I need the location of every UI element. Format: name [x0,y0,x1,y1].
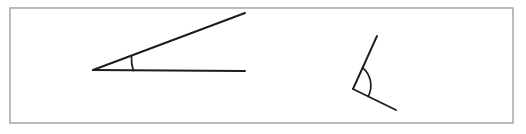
angles-diagram-svg [0,0,526,134]
diagram-border [10,8,513,123]
acute-angle-horizontal-ray [93,70,245,71]
diagram-canvas [0,0,526,134]
